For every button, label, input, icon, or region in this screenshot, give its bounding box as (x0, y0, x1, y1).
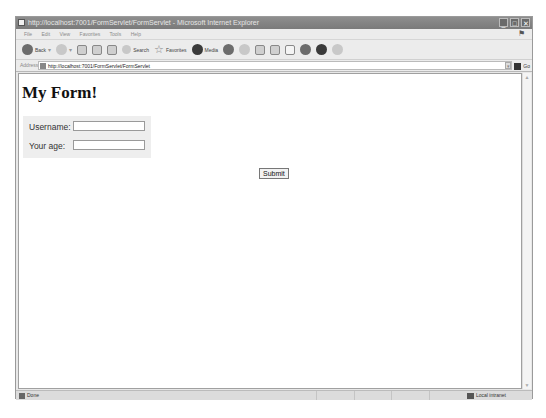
status-text: Done (19, 391, 39, 400)
mail-icon[interactable] (239, 44, 250, 55)
menu-help[interactable]: Help (131, 29, 141, 39)
age-input[interactable] (73, 140, 145, 150)
edit-icon[interactable] (270, 45, 280, 55)
maximize-button[interactable]: □ (510, 18, 519, 27)
scroll-up-icon[interactable]: ▲ (523, 73, 531, 81)
stop-icon[interactable] (77, 45, 87, 55)
scroll-down-icon[interactable]: ▼ (523, 381, 531, 389)
contacts-icon[interactable] (332, 44, 343, 55)
username-input[interactable] (73, 121, 145, 131)
address-dropdown-button[interactable]: ▾ (505, 62, 511, 69)
star-icon: ☆ (154, 43, 164, 56)
status-pane (316, 391, 354, 400)
dropdown-arrow-icon: ▾ (69, 46, 72, 53)
menu-edit[interactable]: Edit (41, 29, 50, 39)
media-icon (192, 44, 203, 55)
form-table: Username: Your age: (23, 116, 151, 158)
home-icon[interactable] (107, 45, 117, 55)
minimize-button[interactable]: _ (499, 18, 508, 27)
intranet-icon (467, 393, 474, 399)
window-title: http://localhost:7001/FormServlet/FormSe… (28, 17, 259, 29)
page-done-icon (19, 393, 25, 399)
page-icon (40, 63, 46, 69)
status-panes (316, 391, 466, 400)
menu-tools[interactable]: Tools (110, 29, 122, 39)
forward-arrow-icon (56, 44, 67, 55)
status-label: Done (27, 391, 39, 400)
close-button[interactable]: ✕ (521, 18, 530, 27)
go-button[interactable]: Go (514, 61, 530, 72)
age-row: Your age: (29, 141, 65, 151)
media-label: Media (205, 47, 219, 53)
page-heading: My Form! (22, 83, 97, 103)
status-bar: Done Local intranet (16, 390, 532, 400)
search-label: Search (133, 47, 149, 53)
print-icon[interactable] (255, 45, 265, 55)
forward-button[interactable]: ▾ (56, 44, 72, 55)
submit-button[interactable]: Submit (259, 168, 289, 179)
windows-logo-icon: ⚑ (518, 29, 528, 39)
address-input[interactable]: http://localhost:7001/FormServlet/FormSe… (38, 61, 512, 70)
username-row: Username: (29, 122, 71, 132)
address-url: http://localhost:7001/FormServlet/FormSe… (48, 63, 150, 69)
page-content: My Form! Username: Your age: Submit (18, 73, 522, 389)
toolbar: Back ▾ ▾ Search ☆ Favorites Media (16, 40, 532, 60)
go-arrow-icon (514, 63, 521, 70)
zone-label: Local intranet (476, 391, 506, 400)
discuss-icon[interactable] (285, 45, 295, 55)
go-label: Go (523, 61, 530, 72)
refresh-icon[interactable] (92, 45, 102, 55)
status-pane (391, 391, 429, 400)
back-button[interactable]: Back ▾ (22, 44, 51, 55)
dropdown-arrow-icon: ▾ (48, 46, 51, 53)
favorites-label: Favorites (166, 47, 187, 53)
vertical-scrollbar[interactable]: ▲ ▼ (522, 73, 531, 389)
age-label: Your age: (29, 141, 65, 151)
search-button[interactable]: Search (122, 45, 149, 54)
title-bar: http://localhost:7001/FormServlet/FormSe… (16, 17, 532, 29)
address-label: Address (20, 60, 38, 71)
menu-favorites[interactable]: Favorites (80, 29, 101, 39)
back-label: Back (35, 47, 46, 53)
address-bar: Address http://localhost:7001/FormServle… (16, 60, 532, 72)
status-pane (354, 391, 392, 400)
media-button[interactable]: Media (192, 44, 219, 55)
status-pane (429, 391, 467, 400)
back-arrow-icon (22, 44, 33, 55)
favorites-button[interactable]: ☆ Favorites (154, 43, 187, 56)
menu-file[interactable]: File (24, 29, 32, 39)
security-zone: Local intranet (467, 391, 506, 400)
menu-bar: File Edit View Favorites Tools Help ⚑ (16, 29, 532, 40)
ie-page-icon (18, 19, 25, 26)
browser-window: http://localhost:7001/FormServlet/FormSe… (15, 16, 533, 399)
menu-view[interactable]: View (59, 29, 70, 39)
research-icon[interactable] (316, 44, 327, 55)
history-icon[interactable] (223, 44, 234, 55)
username-label: Username: (29, 122, 71, 132)
search-icon (122, 45, 131, 54)
messenger-icon[interactable] (300, 44, 311, 55)
